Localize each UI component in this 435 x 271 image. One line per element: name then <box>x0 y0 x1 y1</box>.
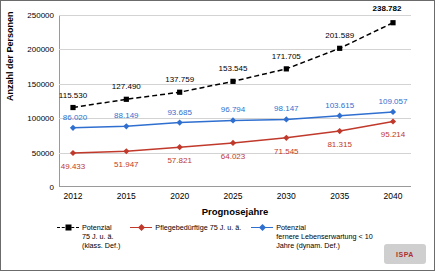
data-point-label: 137.759 <box>165 75 194 84</box>
legend-marker-blue <box>251 224 273 232</box>
chart-figure: Anzahl der Personen 05000010000015000020… <box>0 0 435 271</box>
series-marker <box>390 20 395 25</box>
series-marker <box>337 128 343 134</box>
x-tick-label: 2030 <box>277 191 296 201</box>
series-marker <box>177 90 182 95</box>
series-marker <box>230 117 236 123</box>
series-marker <box>177 144 183 150</box>
x-tick-label: 2015 <box>117 191 136 201</box>
series-marker <box>284 66 289 71</box>
y-tick-label: 0 <box>50 183 54 192</box>
y-tick-label: 100000 <box>27 114 54 123</box>
data-point-label: 201.589 <box>325 31 354 40</box>
series-marker <box>230 79 235 84</box>
data-point-label: 103.615 <box>325 100 354 109</box>
series-marker <box>337 113 343 119</box>
chart-legend: Potenzial 75 J. u. ä. (klass. Def.) Pfle… <box>57 223 387 250</box>
legend-label-potenzial-dynam: Potenzial fernere Lebenserwartung < 10 J… <box>276 223 373 250</box>
data-point-label: 57.821 <box>167 156 191 165</box>
legend-label-line2: fernere Lebenserwartung < 10 <box>276 232 373 241</box>
data-point-label: 171.705 <box>272 51 301 60</box>
legend-label-line1: Potenzial <box>82 223 120 232</box>
data-point-label: 86.020 <box>63 112 87 121</box>
x-tick-label: 2020 <box>170 191 189 201</box>
data-point-label: 81.315 <box>327 140 351 149</box>
data-point-label: 153.545 <box>219 64 248 73</box>
data-point-label: 96.794 <box>221 105 245 114</box>
y-tick-label: 200000 <box>27 45 54 54</box>
data-point-label: 238.782 <box>373 3 402 12</box>
series-marker <box>283 116 289 122</box>
series-marker <box>283 135 289 141</box>
x-tick-label: 2035 <box>330 191 349 201</box>
data-point-label: 95.214 <box>381 130 405 139</box>
series-marker <box>70 150 76 156</box>
series-marker <box>124 97 129 102</box>
data-point-label: 71.545 <box>274 146 298 155</box>
legend-item-potenzial-dynam: Potenzial fernere Lebenserwartung < 10 J… <box>251 223 373 250</box>
x-tick-label: 2025 <box>224 191 243 201</box>
series-marker <box>390 118 396 124</box>
data-point-label: 109.057 <box>379 96 408 105</box>
series-marker <box>70 105 75 110</box>
series-lines <box>59 15 411 187</box>
legend-label-line1: Pflegebedürftige 75 J. u. ä. <box>155 223 241 232</box>
legend-label-line3: Jahre (dynam. Def.) <box>276 241 373 250</box>
series-marker <box>123 123 129 129</box>
x-tick-label: 2040 <box>384 191 403 201</box>
series-marker <box>70 125 76 131</box>
y-tick-label: 50000 <box>32 148 54 157</box>
publisher-logo: ISPA <box>384 244 426 264</box>
legend-label-line3: (klass. Def.) <box>82 241 120 250</box>
data-point-label: 88.149 <box>114 111 138 120</box>
legend-item-potenzial-klass: Potenzial 75 J. u. ä. (klass. Def.) <box>57 223 120 250</box>
data-point-label: 51.947 <box>114 160 138 169</box>
legend-label-line2: 75 J. u. ä. <box>82 232 120 241</box>
data-point-label: 49.433 <box>61 161 85 170</box>
data-point-label: 115.530 <box>59 90 87 99</box>
legend-item-pflegebeduerftige: Pflegebedürftige 75 J. u. ä. <box>130 223 241 250</box>
legend-label-potenzial-klass: Potenzial 75 J. u. ä. (klass. Def.) <box>82 223 120 250</box>
data-point-label: 127.490 <box>112 82 141 91</box>
series-marker <box>230 140 236 146</box>
plot-area: 050000100000150000200000250000 201220152… <box>59 15 411 187</box>
data-point-label: 93.685 <box>167 107 191 116</box>
series-marker <box>390 109 396 115</box>
x-axis-title: Prognosejahre <box>59 206 411 217</box>
data-point-label: 64.023 <box>221 151 245 160</box>
series-marker <box>177 119 183 125</box>
y-tick-label: 150000 <box>27 79 54 88</box>
legend-label-line1: Potenzial <box>276 223 373 232</box>
legend-marker-black-dashed <box>57 224 79 232</box>
legend-label-pflegebeduerftige: Pflegebedürftige 75 J. u. ä. <box>155 223 241 232</box>
x-tick-label: 2012 <box>64 191 83 201</box>
series-marker <box>337 46 342 51</box>
y-axis-title: Anzahl der Personen <box>5 11 15 101</box>
y-tick-label: 250000 <box>27 11 54 20</box>
data-point-label: 98.147 <box>274 104 298 113</box>
legend-marker-red <box>130 224 152 232</box>
series-marker <box>123 148 129 154</box>
logo-text: ISPA <box>396 251 414 258</box>
